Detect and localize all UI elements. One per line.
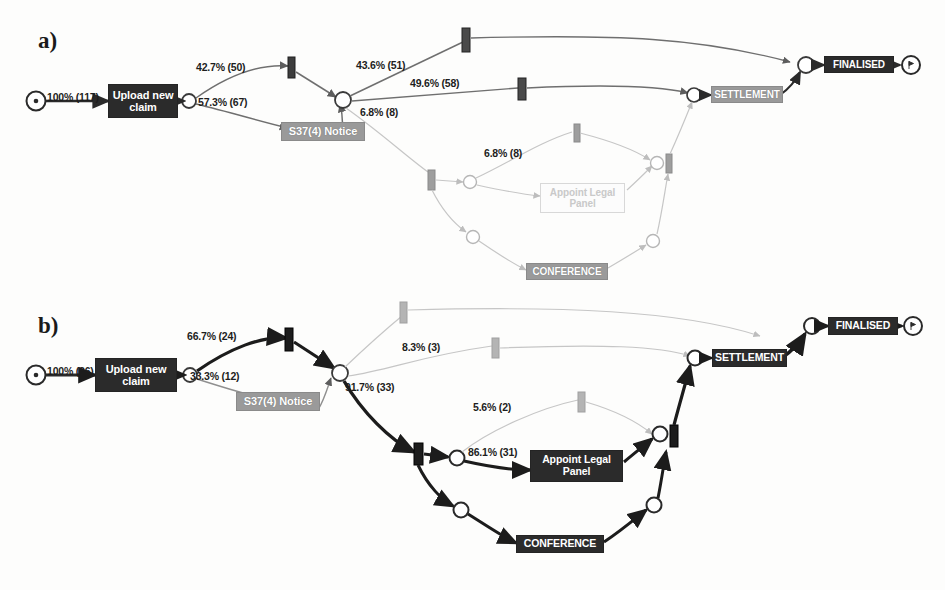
- edge-label-b-861: 86.1% (31): [468, 446, 517, 458]
- transition-bar: [285, 328, 293, 351]
- activity-appoint-legal-panel-b[interactable]: Appoint Legal Panel: [530, 450, 623, 482]
- transition-bar: [670, 425, 678, 447]
- edge-label-b-667: 66.7% (24): [187, 330, 236, 342]
- edge-label-b-917: 91.7% (33): [345, 381, 394, 393]
- activity-upload-new-claim-b[interactable]: Upload new claim: [95, 358, 177, 392]
- activity-conference-b[interactable]: CONFERENCE: [516, 535, 604, 553]
- process-model-figure: a): [0, 0, 945, 590]
- edge-label-b-56: 5.6% (2): [473, 401, 511, 413]
- panel-b-arcs: [0, 0, 945, 590]
- arc-junction-faint-b: [345, 316, 402, 367]
- activity-settlement-b[interactable]: SETTLEMENT: [712, 349, 787, 367]
- edge-label-b-83: 8.3% (3): [402, 341, 440, 353]
- place-junction-b: [332, 365, 348, 381]
- place-b1: [450, 451, 465, 466]
- arc-upload-t1-b: [197, 338, 286, 371]
- transition-bar: [414, 443, 423, 465]
- place-before-settlement-b: [688, 351, 703, 366]
- transition-bar: [492, 338, 499, 358]
- transition-bar: [400, 302, 407, 323]
- place-before-finalised-b: [804, 318, 820, 334]
- place-b3: [647, 498, 662, 513]
- place-b2: [454, 503, 469, 518]
- activity-finalised-b[interactable]: FINALISED: [828, 317, 898, 335]
- transition-bar: [578, 392, 585, 412]
- edge-label-b-start: 100% (36): [47, 365, 94, 377]
- arc-to-appoint-b: [464, 461, 530, 470]
- place-b4: [653, 427, 668, 442]
- activity-s37-notice-b[interactable]: S37(4) Notice: [236, 392, 320, 411]
- edge-label-b-333: 33.3% (12): [190, 370, 239, 382]
